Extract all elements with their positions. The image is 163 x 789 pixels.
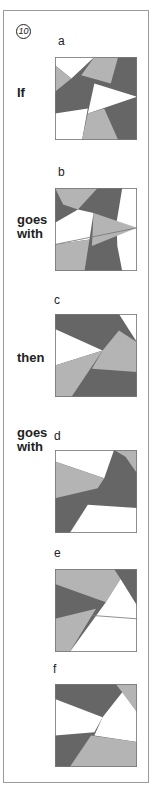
option-label-e: e bbox=[54, 547, 61, 559]
question-number: 10 bbox=[16, 24, 31, 39]
option-label-b: b bbox=[58, 166, 65, 178]
figure-a-graphic bbox=[55, 57, 137, 140]
figure-c-graphic bbox=[55, 314, 137, 397]
words-goes-with-1: goes with bbox=[17, 213, 47, 241]
figure-a[interactable] bbox=[55, 57, 137, 140]
option-label-d: d bbox=[54, 430, 61, 442]
word-then: then bbox=[17, 351, 44, 365]
figure-e-graphic bbox=[55, 569, 137, 652]
option-label-f: f bbox=[53, 663, 56, 675]
figure-b-graphic bbox=[55, 188, 137, 271]
figure-f-graphic bbox=[55, 684, 137, 767]
figure-e[interactable] bbox=[55, 569, 137, 652]
option-label-a: a bbox=[58, 35, 65, 47]
words-goes-with-2: goes with bbox=[17, 426, 47, 454]
figure-f[interactable] bbox=[55, 684, 137, 767]
word-if: If bbox=[17, 86, 25, 100]
figure-d[interactable] bbox=[55, 450, 137, 533]
figure-b[interactable] bbox=[55, 188, 137, 271]
option-label-c: c bbox=[54, 294, 60, 306]
figure-d-graphic bbox=[55, 450, 137, 533]
figure-c[interactable] bbox=[55, 314, 137, 397]
